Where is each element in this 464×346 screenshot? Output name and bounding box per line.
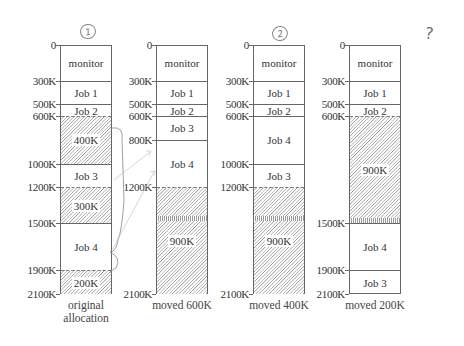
handwritten-annotation-lines bbox=[0, 0, 464, 346]
